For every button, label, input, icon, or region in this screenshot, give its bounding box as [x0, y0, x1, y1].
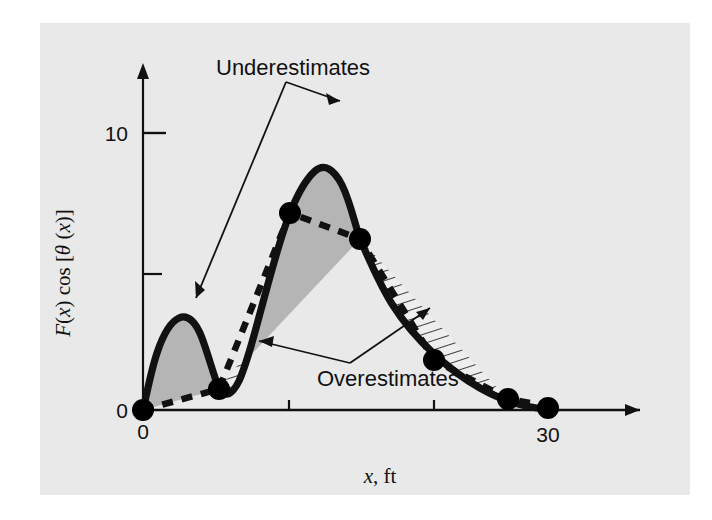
data-point — [208, 378, 230, 400]
data-point — [537, 397, 559, 419]
y-tick-label-10: 10 — [105, 122, 128, 145]
data-point — [349, 228, 371, 250]
data-point — [497, 388, 519, 410]
data-point — [132, 399, 154, 421]
annotation-underestimates: Underestimates — [216, 55, 370, 80]
data-point — [279, 202, 301, 224]
x-tick-label-30: 30 — [536, 423, 559, 446]
arrowhead-icon — [195, 281, 205, 298]
x-tick-label-0: 0 — [137, 420, 149, 443]
chart-plot-area: 0 10 0 30 Underestimates Overestimates x… — [40, 23, 690, 495]
y-axis-arrowhead — [137, 63, 149, 79]
y-tick-label-0: 0 — [116, 399, 128, 422]
arrowhead-icon — [326, 93, 340, 105]
x-axis — [137, 400, 640, 416]
annotation-overestimates: Overestimates — [317, 366, 459, 391]
y-axis-title: F(x) cos [θ (x)] — [51, 209, 75, 338]
x-axis-arrowhead — [625, 404, 640, 416]
figure-root: 0 10 0 30 Underestimates Overestimates x… — [0, 0, 712, 520]
chart-panel: 0 10 0 30 Underestimates Overestimates x… — [40, 23, 690, 495]
x-axis-title: x, ft — [363, 464, 397, 488]
